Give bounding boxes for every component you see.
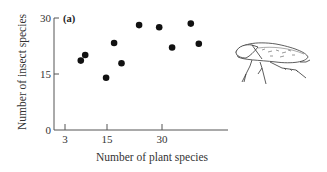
data-point xyxy=(78,57,85,64)
panel-label: (a) xyxy=(63,13,76,25)
data-point xyxy=(156,24,163,31)
x-tick-label-3: 3 xyxy=(62,133,68,145)
data-points xyxy=(78,20,203,81)
y-axis-label: Number of insect species xyxy=(16,14,29,130)
x-axis-label: Number of plant species xyxy=(96,151,209,164)
data-point xyxy=(196,41,203,48)
data-point xyxy=(188,20,195,27)
data-point xyxy=(118,60,125,67)
data-point xyxy=(136,22,143,29)
data-point xyxy=(103,74,110,81)
data-point xyxy=(169,44,176,51)
leafhopper-insect-icon xyxy=(236,43,310,84)
scatter-chart: 30 15 0 3 15 30 Number of plant species … xyxy=(0,0,327,172)
x-tick-label-15: 15 xyxy=(102,133,114,145)
axes xyxy=(54,18,228,130)
x-tick-label-30: 30 xyxy=(157,133,169,145)
y-tick-label-30: 30 xyxy=(40,12,52,24)
y-tick-label-0: 0 xyxy=(46,124,52,136)
data-point xyxy=(82,52,89,59)
data-point xyxy=(111,40,118,47)
y-tick-label-15: 15 xyxy=(40,68,52,80)
